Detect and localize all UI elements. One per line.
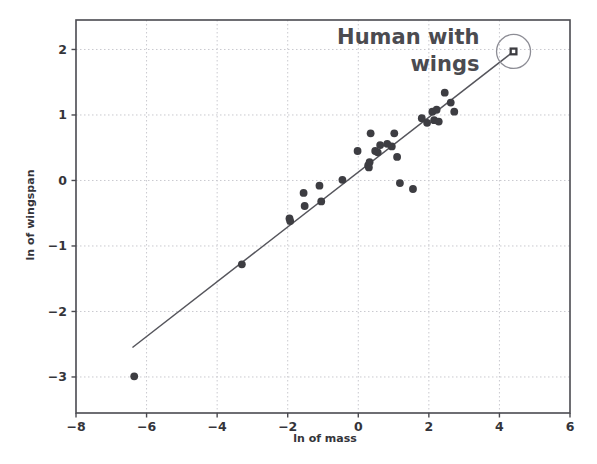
- data-point[interactable]: [450, 108, 458, 116]
- x-tick-label: −4: [208, 419, 227, 434]
- y-tick-label: −2: [48, 304, 67, 319]
- annotation-line: wings: [410, 52, 479, 76]
- square-marker-inner: [512, 50, 515, 53]
- data-point[interactable]: [301, 202, 309, 210]
- data-point[interactable]: [393, 153, 401, 161]
- data-point[interactable]: [376, 141, 384, 149]
- data-point[interactable]: [423, 119, 431, 127]
- data-point[interactable]: [366, 158, 374, 166]
- y-tick-label: 1: [58, 107, 67, 122]
- data-point[interactable]: [339, 176, 347, 184]
- data-point[interactable]: [367, 129, 375, 137]
- x-axis-title: ln of mass: [293, 432, 357, 445]
- data-point[interactable]: [396, 179, 404, 187]
- data-point[interactable]: [316, 182, 324, 190]
- data-point[interactable]: [300, 189, 308, 197]
- x-tick-label: 2: [425, 419, 434, 434]
- data-point[interactable]: [409, 185, 417, 193]
- x-tick-label: 6: [566, 419, 575, 434]
- x-tick-label: 4: [495, 419, 504, 434]
- data-point[interactable]: [238, 260, 246, 268]
- y-tick-label: −3: [48, 369, 67, 384]
- data-point-square[interactable]: [510, 47, 518, 55]
- data-point[interactable]: [286, 217, 294, 225]
- annotation-line: Human with: [337, 25, 479, 49]
- data-point[interactable]: [354, 147, 362, 155]
- y-tick-label: −1: [48, 238, 67, 253]
- scatter-plot-svg: −8−6−4−20246−3−2−1012 Human withwings ln…: [0, 0, 597, 464]
- plot-background: [0, 0, 597, 464]
- data-point[interactable]: [447, 99, 455, 107]
- data-point[interactable]: [374, 148, 382, 156]
- data-point[interactable]: [441, 89, 449, 97]
- y-tick-label: 2: [58, 42, 67, 57]
- y-axis-title: ln of wingspan: [24, 170, 37, 261]
- chart-figure: −8−6−4−20246−3−2−1012 Human withwings ln…: [0, 0, 597, 464]
- data-point[interactable]: [388, 143, 396, 151]
- x-tick-label: −6: [137, 419, 156, 434]
- x-tick-label: −8: [66, 419, 85, 434]
- data-point[interactable]: [130, 372, 138, 380]
- data-point[interactable]: [435, 118, 443, 126]
- y-tick-label: 0: [58, 173, 67, 188]
- data-point[interactable]: [433, 106, 441, 114]
- data-point[interactable]: [390, 129, 398, 137]
- data-point[interactable]: [317, 198, 325, 206]
